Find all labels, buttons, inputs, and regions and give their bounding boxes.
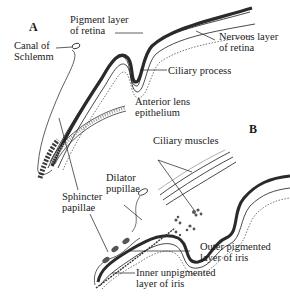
ciliary-muscle-clusters xyxy=(174,208,202,236)
label-outer-pigmented-layer: Outer pigmented layer of iris xyxy=(200,241,271,263)
anterior-lens-epithelium xyxy=(50,106,126,164)
label-sphincter-papillae: Sphincter papillae xyxy=(62,191,102,213)
label-ciliary-process: Ciliary process xyxy=(168,65,231,76)
label-inner-unpigmented-layer: Inner unpigmented layer of iris xyxy=(136,267,216,289)
panel-letter-a: A xyxy=(29,20,38,35)
label-dilator-pupillae: Dilator pupillae xyxy=(106,172,140,194)
panel-letter-b: B xyxy=(249,122,257,137)
label-anterior-lens-epithelium: Anterior lens epithelium xyxy=(135,96,190,118)
label-pigment-layer: Pigment layer of retina xyxy=(70,14,129,36)
label-canal-of-schlemm: Canal of Schlemm xyxy=(14,40,54,62)
label-nervous-layer: Nervous layer of retina xyxy=(219,31,278,53)
label-ciliary-muscles: Ciliary muscles xyxy=(153,135,219,146)
